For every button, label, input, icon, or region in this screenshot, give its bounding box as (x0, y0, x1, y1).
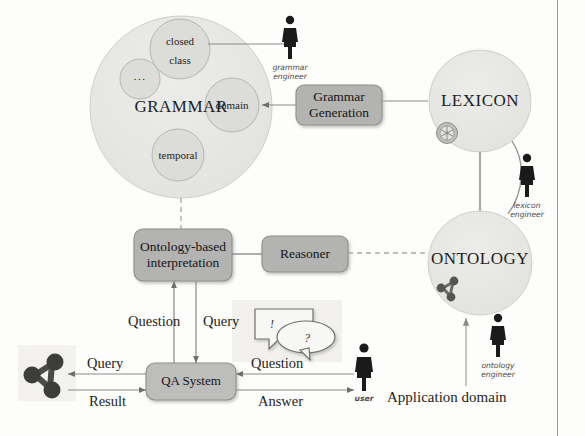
edge-label-query-down: Query (203, 313, 239, 330)
interpretation-line2: interpretation (140, 255, 226, 271)
diagram-canvas: GRAMMAR closed class ... domain temporal… (0, 0, 585, 436)
ontology-engineer-line2: engineer (481, 370, 515, 379)
grammar-subcircle-domain-label: domain (216, 99, 249, 112)
application-domain-caption: Application domain (387, 389, 507, 406)
person-icon-ontology-engineer (490, 314, 506, 357)
grammar-subcircle-closed-label: closed (166, 35, 194, 48)
grammar-subcircle-ellipsis-label: ... (134, 70, 147, 83)
interpretation-line1: Ontology-based (140, 239, 226, 255)
ontology-label: ONTOLOGY (431, 249, 529, 269)
edge-label-question-up: Question (128, 313, 180, 330)
ontology-engineer-line1: ontology (481, 361, 515, 370)
grammar-label: GRAMMAR (134, 97, 227, 117)
grammar-subcircle-temporal-label: temporal (158, 149, 197, 162)
edge-label-answer-right: Answer (258, 393, 303, 410)
ontology-engineer-role: ontology engineer (481, 361, 515, 380)
person-icon-user (355, 343, 373, 391)
grammar-generation-line2: Generation (309, 105, 369, 121)
lexicon-engineer-line2: engineer (510, 210, 544, 219)
edge-label-query-left: Query (87, 355, 123, 372)
person-icon-lexicon-engineer (519, 154, 535, 197)
qa-system-label[interactable]: QA System (161, 373, 221, 388)
lexicon-engineer-line1: lexicon (510, 201, 544, 210)
grammar-subcircle-class-label: class (169, 54, 190, 67)
grammar-generation-line1: Grammar (309, 89, 369, 105)
page-border (557, 0, 558, 436)
grammar-generation-label[interactable]: Grammar Generation (309, 89, 369, 121)
lexicon-engineer-role: lexicon engineer (510, 201, 544, 220)
grammar-subcircle-closed-class (150, 19, 210, 79)
grammar-engineer-line1: grammar (272, 63, 307, 72)
bubble-exclamation: ! (270, 317, 274, 332)
user-role: user (355, 394, 374, 403)
reasoner-label[interactable]: Reasoner (280, 246, 330, 262)
asterisk-wheel-icon (437, 123, 458, 144)
person-icon-grammar-engineer (282, 16, 298, 59)
lexicon-label: LEXICON (441, 91, 519, 111)
bubble-question: ? (304, 331, 310, 346)
edge-label-question-right: Question (251, 355, 303, 372)
ontology-based-interpretation-label[interactable]: Ontology-based interpretation (140, 239, 226, 271)
grammar-engineer-line2: engineer (272, 72, 307, 81)
edge-label-result-left: Result (89, 393, 126, 410)
grammar-engineer-role: grammar engineer (272, 63, 307, 82)
